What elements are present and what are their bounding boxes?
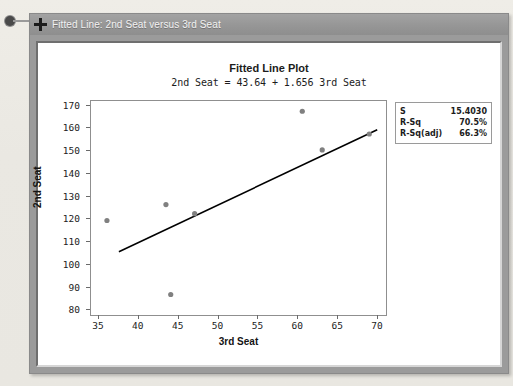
y-axis-tick-label: 140 [50, 167, 80, 178]
x-axis-tick-label: 40 [123, 320, 153, 331]
statistic-value: 15.4030 [451, 106, 487, 117]
statistic-key: S [400, 106, 406, 117]
x-axis-tick-label: 70 [362, 320, 392, 331]
plot-svg [91, 101, 386, 315]
y-axis-tick-label: 120 [50, 213, 80, 224]
data-point[interactable] [163, 202, 168, 207]
chart-subtitle: 2nd Seat = 43.64 + 1.656 3rd Seat [38, 77, 500, 88]
y-axis-tick-mark [86, 264, 90, 265]
y-axis-tick-mark [86, 105, 90, 106]
data-point[interactable] [192, 211, 197, 216]
x-axis-tick-mark [297, 315, 298, 319]
x-axis-tick-label: 45 [163, 320, 193, 331]
data-point[interactable] [168, 292, 173, 297]
y-axis-tick-label: 80 [50, 304, 80, 315]
y-axis-tick-label: 150 [50, 145, 80, 156]
statistic-key: R-Sq(adj) [400, 128, 442, 139]
x-axis-tick-label: 55 [242, 320, 272, 331]
x-axis-tick-label: 65 [322, 320, 352, 331]
chart-title: Fitted Line Plot [38, 62, 500, 74]
statistic-key: R-Sq [400, 117, 421, 128]
x-axis-tick-mark [138, 315, 139, 319]
data-point[interactable] [104, 218, 109, 223]
x-axis-tick-label: 35 [83, 320, 113, 331]
x-axis-tick-mark [218, 315, 219, 319]
y-axis-tick-label: 160 [50, 122, 80, 133]
y-axis-tick-mark [86, 309, 90, 310]
screenshot-root: Fitted Line: 2nd Seat versus 3rd Seat Fi… [0, 0, 513, 386]
statistics-box: S15.4030R-Sq70.5%R-Sq(adj)66.3% [395, 102, 492, 144]
graph-canvas: Fitted Line Plot 2nd Seat = 43.64 + 1.65… [36, 41, 502, 367]
x-axis-tick-mark [98, 315, 99, 319]
y-axis-tick-label: 90 [50, 281, 80, 292]
data-point[interactable] [367, 131, 372, 136]
x-axis-tick-mark [337, 315, 338, 319]
y-axis-tick-label: 170 [50, 99, 80, 110]
y-axis-tick-mark [86, 241, 90, 242]
x-axis-tick-label: 50 [203, 320, 233, 331]
statistic-value: 66.3% [459, 128, 487, 139]
x-axis-tick-mark [178, 315, 179, 319]
window-title: Fitted Line: 2nd Seat versus 3rd Seat [52, 19, 221, 30]
x-axis-tick-mark [257, 315, 258, 319]
move-cross-icon[interactable] [34, 18, 47, 31]
fitted-regression-line [119, 130, 377, 252]
window-titlebar[interactable]: Fitted Line: 2nd Seat versus 3rd Seat [30, 14, 508, 35]
plot-area [90, 100, 387, 316]
graph-window[interactable]: Fitted Line: 2nd Seat versus 3rd Seat Fi… [29, 13, 509, 374]
y-axis-label: 2nd Seat [32, 166, 43, 208]
y-axis-tick-mark [86, 127, 90, 128]
y-axis-tick-mark [86, 196, 90, 197]
y-axis-tick-mark [86, 173, 90, 174]
x-axis-label: 3rd Seat [90, 336, 387, 347]
y-axis-tick-mark [86, 218, 90, 219]
statistic-row: R-Sq70.5% [400, 117, 487, 128]
y-axis-tick-mark [86, 150, 90, 151]
statistic-row: R-Sq(adj)66.3% [400, 128, 487, 139]
x-axis-tick-mark [377, 315, 378, 319]
statistic-row: S15.4030 [400, 106, 487, 117]
y-axis-tick-label: 130 [50, 190, 80, 201]
x-axis-tick-label: 60 [282, 320, 312, 331]
statistic-value: 70.5% [459, 117, 487, 128]
data-point[interactable] [320, 147, 325, 152]
y-axis-tick-label: 100 [50, 258, 80, 269]
data-point[interactable] [300, 109, 305, 114]
y-axis-tick-mark [86, 287, 90, 288]
y-axis-tick-label: 110 [50, 236, 80, 247]
